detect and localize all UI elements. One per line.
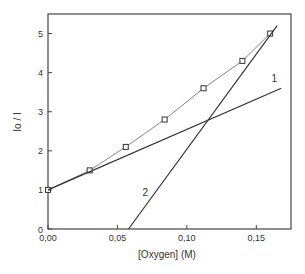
y-tick-label: 4	[38, 68, 43, 78]
data-point-marker	[123, 144, 128, 149]
line-annotation-2: 2	[142, 187, 148, 198]
x-tick-label: 0,00	[39, 233, 57, 243]
line-annotation-1: 1	[272, 73, 278, 84]
y-tick-label: 5	[38, 29, 43, 39]
y-tick-label: 2	[38, 146, 43, 156]
y-tick-label: 1	[38, 185, 43, 195]
series-layer: 12	[46, 26, 282, 229]
series-line-2	[129, 26, 278, 229]
plot-frame	[48, 14, 291, 229]
chart: 12 0,000,050,100,15012345 [Oxygen] (M) I…	[0, 0, 305, 274]
data-point-marker	[201, 86, 206, 91]
x-axis-label: [Oxygen] (M)	[138, 249, 196, 260]
axis-ticks: 0,000,050,100,15012345	[38, 29, 265, 243]
series-line-data	[48, 34, 270, 190]
plot-border	[48, 14, 291, 229]
y-tick-label: 0	[38, 225, 43, 235]
series-line-1	[48, 88, 281, 190]
x-tick-label: 0,15	[248, 233, 266, 243]
x-tick-label: 0,10	[178, 233, 196, 243]
y-axis-label: Io / I	[12, 112, 23, 131]
data-point-marker	[240, 58, 245, 63]
y-tick-label: 3	[38, 107, 43, 117]
x-tick-label: 0,05	[109, 233, 127, 243]
data-point-marker	[162, 117, 167, 122]
